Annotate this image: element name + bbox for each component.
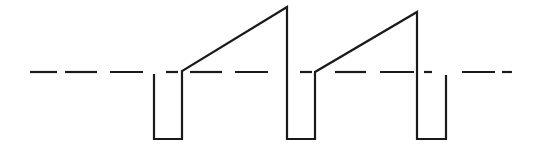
waveform-diagram	[0, 0, 548, 155]
